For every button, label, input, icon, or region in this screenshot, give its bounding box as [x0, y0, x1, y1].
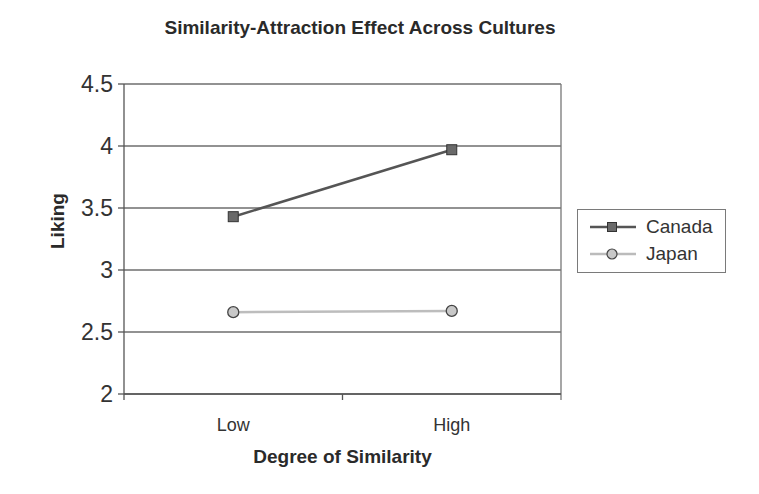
data-point-canada: [228, 212, 238, 222]
data-point-canada: [447, 145, 457, 155]
y-tick-label: 3: [100, 257, 113, 283]
series-line-canada: [233, 150, 452, 217]
data-point-japan: [446, 305, 457, 316]
square-marker-icon: [578, 214, 644, 240]
circle-marker-icon: [578, 241, 644, 267]
legend-item-japan: Japan: [578, 241, 725, 267]
x-tick-label: High: [433, 415, 470, 435]
y-tick-label: 3.5: [81, 195, 113, 221]
legend: Canada Japan: [577, 209, 726, 273]
legend-label: Canada: [646, 214, 713, 240]
data-point-japan: [228, 307, 239, 318]
y-tick-label: 2: [100, 381, 113, 407]
y-tick-label: 4: [100, 133, 113, 159]
y-tick-label: 4.5: [81, 71, 113, 97]
x-tick-label: Low: [217, 415, 251, 435]
y-tick-label: 2.5: [81, 319, 113, 345]
legend-label: Japan: [646, 241, 698, 267]
series-line-japan: [233, 311, 452, 312]
legend-item-canada: Canada: [578, 214, 725, 240]
